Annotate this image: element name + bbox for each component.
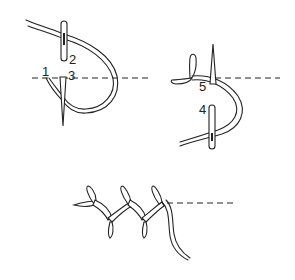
diagram-svg: 2 1 3 5 4 [0,0,295,280]
panel-step-a: 2 1 3 [26,20,150,126]
thread-a-tail-1 [46,78,62,100]
needle-eye-b [209,105,215,149]
stitch-diagram: 2 1 3 5 4 [0,0,295,280]
label-5: 5 [199,79,206,94]
label-2: 2 [69,52,76,67]
label-3: 3 [68,68,75,83]
needle-eye-slot-b [211,133,213,141]
needle-eye-a [63,33,65,45]
stitch-leaf-6 [152,186,162,204]
stitch-leaf-3 [109,222,114,238]
stitch-leaf-5 [143,222,148,238]
thread-b-inner [180,80,237,142]
needle-point-a [60,77,66,126]
needle-point-b [210,44,216,84]
stitch-link-4 [142,202,164,222]
stitch-loop-b2 [171,78,192,84]
label-1: 1 [42,64,49,79]
panel-step-b: 5 4 [171,44,280,149]
panel-finished-stitch [74,186,237,260]
label-4: 4 [199,102,206,117]
thread-c-outer [162,202,188,260]
